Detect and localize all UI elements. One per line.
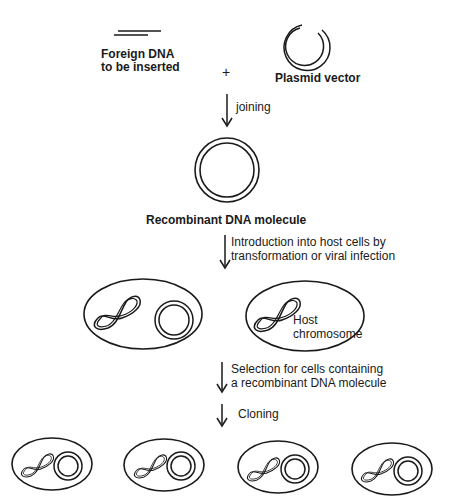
- foreign-dna-label-line2: to be inserted: [101, 60, 180, 74]
- plus-sign: +: [222, 65, 230, 79]
- clone-cell-4-icon: [352, 443, 432, 495]
- recombinant-dna-label: Recombinant DNA molecule: [146, 213, 306, 227]
- arrow-selection-icon: [217, 362, 227, 392]
- clone-cell-3-icon: [238, 441, 318, 493]
- foreign-dna-label-line1: Foreign DNA: [101, 47, 174, 61]
- plasmid-vector-label: Plasmid vector: [275, 71, 360, 85]
- arrow-cloning-icon: [217, 404, 227, 426]
- clone-cell-2-icon: [124, 439, 204, 491]
- host-label-line1: Host: [293, 313, 318, 327]
- step-introduction-line1: Introduction into host cells by: [231, 235, 386, 249]
- foreign-dna-icon: [114, 31, 161, 35]
- host-label-line2: chromosome: [293, 327, 362, 341]
- step-selection-line2: a recombinant DNA molecule: [231, 376, 386, 390]
- arrow-joining-icon: [222, 94, 232, 126]
- arrow-introduction-icon: [220, 235, 230, 268]
- transformed-host-cell-icon: [84, 279, 202, 349]
- clone-cell-1-icon: [12, 438, 92, 490]
- step-joining-label: joining: [236, 100, 271, 114]
- recombinant-dna-icon: [195, 138, 259, 202]
- step-cloning-label: Cloning: [238, 407, 279, 421]
- step-selection-line1: Selection for cells containing: [231, 362, 383, 376]
- step-introduction-line2: transformation or viral infection: [231, 249, 395, 263]
- plasmid-vector-icon: [284, 25, 330, 70]
